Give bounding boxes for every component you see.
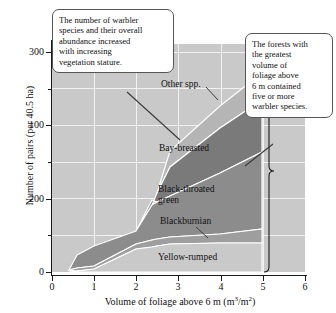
y-tick <box>46 199 52 200</box>
callout-left-line-2: species and their overall <box>59 25 167 35</box>
chart-figure: 0 1 2 3 4 5 6 0 100 200 300 Volume of fo… <box>0 0 336 313</box>
y-axis-title: Number of pairs (per 40.5 ha) <box>24 61 35 231</box>
leader-line-other-spp <box>206 87 218 100</box>
series-label-other-spp: Other spp. <box>161 79 201 90</box>
series-label-black-throated-green: Black-throated green <box>158 184 214 206</box>
callout-right: The forests with the greatest volume of … <box>245 33 333 118</box>
x-axis-title-end: ) <box>252 296 255 307</box>
callout-left-line-5: vegetation stature. <box>59 57 167 67</box>
y-tick-minor <box>48 89 52 90</box>
series-label-blackburnian: Blackburnian <box>160 216 211 227</box>
x-tick-label: 2 <box>126 282 146 292</box>
x-axis-line <box>51 275 307 276</box>
callout-right-line-4: foliage above <box>252 70 326 80</box>
callout-right-line-5: 6 m contained <box>252 81 326 91</box>
y-tick <box>46 272 52 273</box>
x-tick-label: 6 <box>295 282 315 292</box>
callout-left-line-1: The number of warbler <box>59 15 167 25</box>
leader-line-left-callout <box>127 92 180 140</box>
y-tick-minor <box>48 162 52 163</box>
series-label-line1: Black-throated <box>158 184 214 195</box>
y-axis-line <box>51 40 52 276</box>
y-tick-minor <box>48 235 52 236</box>
x-axis-title-main: Volume of foliage above 6 m (m <box>105 296 235 307</box>
x-tick-label: 0 <box>42 282 62 292</box>
callout-right-line-1: The forests with <box>252 39 326 49</box>
y-tick <box>46 125 52 126</box>
series-label-line2: green <box>158 195 214 206</box>
x-tick-label: 4 <box>211 282 231 292</box>
x-axis-title: Volume of foliage above 6 m (m3/m2) <box>52 294 308 307</box>
x-axis-title-mid: /m <box>238 296 249 307</box>
callout-right-line-6: five or more <box>252 91 326 101</box>
y-tick-label: 0 <box>18 267 44 277</box>
x-tick-label: 5 <box>253 282 273 292</box>
x-tick-label: 1 <box>84 282 104 292</box>
callout-left: The number of warbler species and their … <box>52 9 174 73</box>
y-tick-label: 300 <box>18 47 44 57</box>
callout-right-line-2: the greatest <box>252 49 326 59</box>
series-label-bay-breasted: Bay-breasted <box>159 143 209 154</box>
series-label-yellow-rumped: Yellow-rumped <box>158 252 217 263</box>
callout-left-line-4: with increasing <box>59 46 167 56</box>
x-tick-label: 3 <box>168 282 188 292</box>
callout-right-line-3: volume of <box>252 60 326 70</box>
callout-left-line-3: abundance increased <box>59 36 167 46</box>
callout-right-line-7: warbler species. <box>252 101 326 111</box>
